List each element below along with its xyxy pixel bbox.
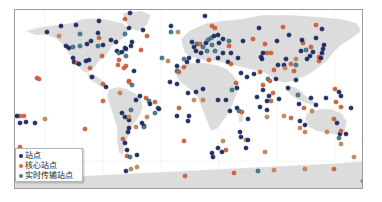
core-station-light-marker: [352, 155, 356, 159]
realtime-station-marker: [304, 48, 308, 52]
core-station-light-marker: [127, 115, 131, 119]
station-marker: [217, 41, 221, 45]
core-station-marker: [182, 139, 186, 143]
station-marker: [239, 135, 243, 139]
station-marker: [187, 114, 191, 118]
core-station-marker: [361, 179, 363, 183]
station-marker: [245, 75, 249, 79]
core-station-marker: [309, 45, 313, 49]
realtime-station-marker: [169, 30, 173, 34]
core-station-light-marker: [272, 168, 276, 172]
realtime-station-marker: [128, 155, 132, 159]
station-marker: [186, 119, 190, 123]
station-marker: [305, 57, 309, 61]
station-marker: [314, 103, 318, 107]
core-station-marker: [265, 51, 269, 55]
station-marker: [148, 102, 152, 106]
station-marker: [267, 94, 271, 98]
realtime-station-marker: [182, 57, 186, 61]
legend-label-core-station: 核心站点: [25, 161, 57, 171]
core-station-light-marker: [303, 167, 307, 171]
realtime-station-marker: [78, 32, 82, 36]
station-marker: [228, 109, 232, 113]
station-marker: [275, 39, 279, 43]
core-station-marker: [334, 100, 338, 104]
legend-item-core-station: 核心站点: [19, 161, 79, 171]
station-marker: [120, 111, 124, 115]
core-station-light-marker: [166, 59, 170, 63]
realtime-station-marker: [201, 45, 205, 49]
station-marker: [349, 106, 353, 110]
station-marker: [45, 30, 49, 34]
realtime-station-marker: [213, 49, 217, 53]
core-station-marker: [22, 114, 26, 118]
station-marker: [194, 90, 198, 94]
legend-item-station: 站点: [19, 151, 79, 161]
station-marker: [125, 148, 129, 152]
core-station-marker: [101, 99, 105, 103]
station-marker: [96, 31, 100, 35]
station-marker: [216, 56, 220, 60]
core-station-light-marker: [221, 139, 225, 143]
station-marker: [303, 123, 307, 127]
station-marker: [246, 117, 250, 121]
station-marker: [74, 23, 78, 27]
realtime-station-marker: [123, 32, 127, 36]
core-station-marker: [177, 70, 181, 74]
realtime-station-marker: [130, 83, 134, 87]
station-marker: [77, 62, 81, 66]
station-marker: [211, 155, 215, 159]
station-marker: [138, 94, 142, 98]
station-marker: [126, 130, 130, 134]
realtime-station-marker: [153, 111, 157, 115]
station-marker: [320, 51, 324, 55]
core-station-marker: [83, 127, 87, 131]
realtime-station-marker: [256, 169, 260, 173]
station-marker: [229, 51, 233, 55]
core-station-marker: [213, 26, 217, 30]
station-marker: [221, 51, 225, 55]
station-marker: [311, 50, 315, 54]
station-marker: [194, 49, 198, 53]
station-marker: [59, 24, 63, 28]
station-marker: [344, 132, 348, 136]
realtime-station-marker: [160, 56, 164, 60]
core-station-marker: [88, 66, 92, 70]
legend-label-station: 站点: [25, 151, 41, 161]
realtime-station-marker: [205, 49, 209, 53]
station-marker: [128, 11, 132, 15]
core-station-marker: [97, 36, 101, 40]
core-station-marker: [145, 34, 149, 38]
core-station-marker: [183, 174, 187, 178]
station-marker: [134, 98, 138, 102]
core-station-marker: [177, 106, 181, 110]
realtime-station-marker: [96, 44, 100, 48]
africa: [175, 63, 239, 131]
realtime-station-marker: [296, 93, 300, 97]
station-marker: [216, 146, 220, 150]
station-marker: [132, 69, 136, 73]
station-marker: [127, 26, 131, 30]
station-marker: [89, 39, 93, 43]
station-marker: [309, 96, 313, 100]
station-dot-icon: [19, 154, 23, 158]
station-marker: [24, 120, 28, 124]
station-marker: [246, 138, 250, 142]
station-marker: [257, 26, 261, 30]
core-station-marker: [229, 62, 233, 66]
core-station-marker: [240, 110, 244, 114]
core-station-light-marker: [135, 165, 139, 169]
station-marker: [235, 86, 239, 90]
core-station-marker: [263, 42, 267, 46]
new-zealand: [361, 135, 363, 147]
station-marker: [210, 151, 214, 155]
station-marker: [322, 43, 326, 47]
station-marker: [298, 119, 302, 123]
station-marker: [294, 78, 298, 82]
core-station-marker: [314, 23, 318, 27]
station-marker: [255, 95, 259, 99]
core-station-marker: [153, 100, 157, 104]
station-marker: [297, 102, 301, 106]
station-marker: [265, 108, 269, 112]
core-station-light-marker: [298, 126, 302, 130]
